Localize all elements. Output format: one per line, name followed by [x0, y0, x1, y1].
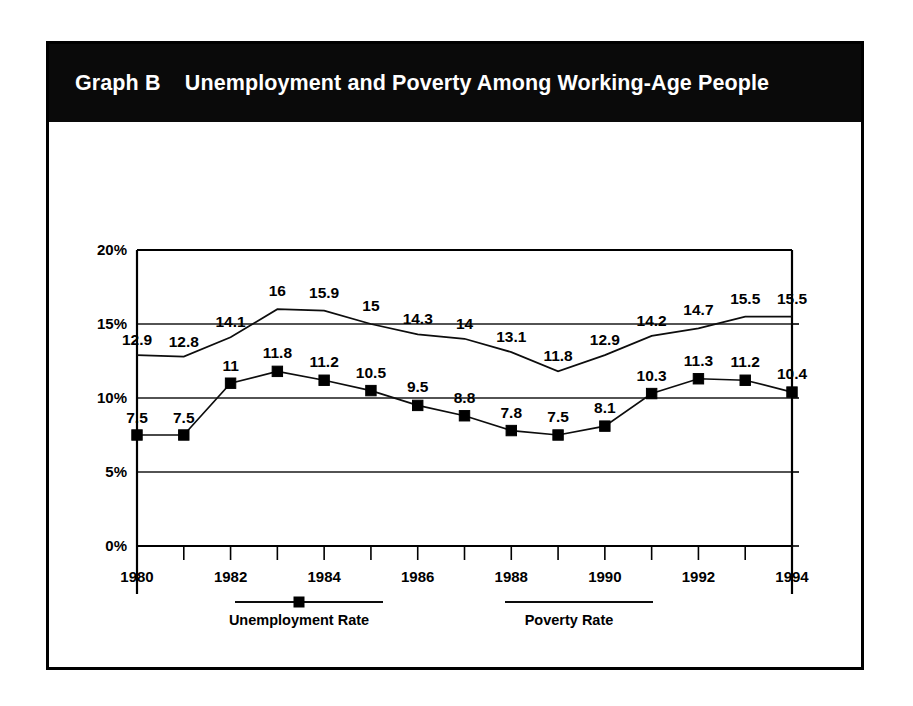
page-title: Graph B Unemployment and Poverty Among W…: [49, 71, 769, 96]
data-point-label: 15.9: [309, 284, 340, 301]
data-point-label: 10.5: [356, 364, 387, 381]
data-point-marker: [132, 430, 142, 440]
y-tick-label: 10%: [97, 389, 127, 406]
data-point-marker: [225, 378, 235, 388]
data-point-marker: [413, 400, 423, 410]
data-point-label: 15.5: [777, 290, 808, 307]
data-point-label: 7.5: [547, 408, 569, 425]
figure-frame: Graph B Unemployment and Poverty Among W…: [46, 41, 864, 670]
data-point-marker: [366, 385, 376, 395]
data-point-marker: [506, 425, 516, 435]
data-point-label: 11.8: [263, 344, 293, 361]
data-point-label: 10.4: [777, 365, 808, 382]
data-point-label: 10.3: [637, 367, 668, 384]
legend-marker-square: [294, 597, 304, 607]
x-tick-label: 1982: [214, 568, 247, 585]
chart-legend: Unemployment RatePoverty Rate: [229, 597, 653, 628]
legend-label: Unemployment Rate: [229, 612, 369, 628]
data-point-marker: [272, 366, 282, 376]
data-point-label: 14.2: [637, 312, 667, 329]
data-point-label: 14.7: [683, 301, 713, 318]
title-banner: Graph B Unemployment and Poverty Among W…: [49, 44, 861, 122]
data-point-label: 8.1: [594, 399, 616, 416]
data-point-label: 14.3: [403, 310, 434, 327]
data-point-label: 14: [456, 315, 474, 332]
data-point-label: 13.1: [496, 328, 527, 345]
data-point-label: 7.5: [173, 409, 195, 426]
y-tick-label: 0%: [105, 537, 127, 554]
x-tick-label: 1984: [307, 568, 341, 585]
data-point-marker: [787, 387, 797, 397]
data-point-marker: [553, 430, 563, 440]
data-point-label: 11: [222, 357, 239, 374]
data-point-labels: 7.57.51111.811.210.59.58.87.87.58.110.31…: [122, 282, 808, 426]
data-point-marker: [179, 430, 189, 440]
y-tick-label: 20%: [97, 241, 127, 258]
x-tick-label: 1986: [401, 568, 434, 585]
data-point-marker: [693, 374, 703, 384]
data-point-marker: [319, 375, 329, 385]
x-tick-label: 1988: [495, 568, 528, 585]
data-point-marker: [740, 375, 750, 385]
data-point-label: 11.2: [731, 353, 760, 370]
y-tick-label: 5%: [105, 463, 127, 480]
data-point-label: 12.9: [590, 331, 621, 348]
data-point-label: 9.5: [407, 378, 429, 395]
line-chart: 0%5%10%15%20% 19801982198419861988199019…: [49, 122, 861, 667]
data-point-label: 12.8: [169, 333, 200, 350]
data-point-label: 12.9: [122, 331, 153, 348]
data-point-label: 14.1: [215, 313, 246, 330]
data-point-marker: [646, 388, 656, 398]
data-point-marker: [459, 411, 469, 421]
x-tick-label: 1992: [682, 568, 715, 585]
x-tick-label: 1990: [588, 568, 621, 585]
data-point-label: 7.8: [501, 404, 523, 421]
data-point-label: 11.8: [543, 347, 573, 364]
data-point-label: 8.8: [454, 389, 476, 406]
data-point-label: 16: [269, 282, 287, 299]
data-point-label: 7.5: [126, 409, 148, 426]
data-point-label: 11.2: [309, 353, 338, 370]
data-point-label: 11.3: [684, 352, 714, 369]
data-point-label: 15: [362, 297, 380, 314]
legend-label: Poverty Rate: [525, 612, 614, 628]
x-axis-ticks: 19801982198419861988199019921994: [120, 546, 809, 585]
y-tick-label: 15%: [97, 315, 127, 332]
chart-plot-area: 0%5%10%15%20% 19801982198419861988199019…: [49, 122, 861, 667]
data-point-label: 15.5: [730, 290, 761, 307]
data-point-marker: [600, 421, 610, 431]
